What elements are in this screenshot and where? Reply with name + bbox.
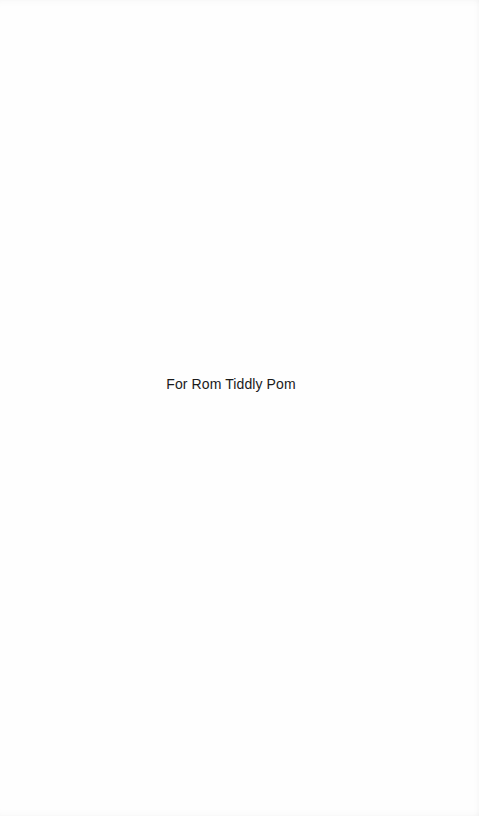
dedication-text: For Rom Tiddly Pom (0, 376, 462, 392)
document-page: For Rom Tiddly Pom (0, 0, 479, 816)
